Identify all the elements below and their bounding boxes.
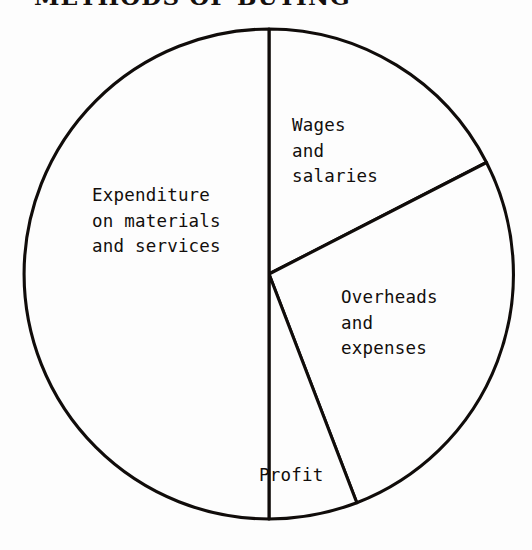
pie-label-overheads: Overheads and expenses [341,285,438,362]
pie-chart-figure: METHODS OF BUYING Expenditure on materia… [0,0,532,550]
pie-label-wages: Wages and salaries [292,113,378,190]
pie-slice-expenditure[interactable] [24,29,269,519]
pie-label-expenditure: Expenditure on materials and services [92,183,221,260]
pie-label-profit: Profit [259,463,323,489]
